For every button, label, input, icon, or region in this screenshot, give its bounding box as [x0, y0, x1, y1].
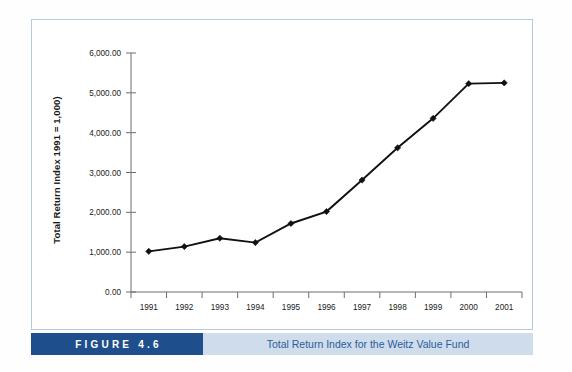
- x-tick-label: 1992: [175, 303, 194, 312]
- y-axis-ticks: 0.001,000.002,000.003,000.004,000.005,00…: [89, 49, 136, 297]
- series-line-total-return-index: [149, 83, 504, 251]
- series-markers: [146, 80, 508, 255]
- data-point-marker: [217, 235, 223, 241]
- figure-number-label: FIGURE 4.6: [31, 333, 203, 355]
- x-axis-ticks: 1991199219931994199519961997199819992000…: [131, 292, 522, 312]
- data-point-marker: [181, 243, 187, 249]
- x-tick-label: 1993: [211, 303, 230, 312]
- figure-caption-text: Total Return Index for the Weitz Value F…: [203, 333, 533, 355]
- y-tick-label: 0.00: [105, 288, 121, 297]
- data-point-marker: [501, 80, 507, 86]
- x-tick-label: 1999: [424, 303, 443, 312]
- x-tick-label: 1994: [246, 303, 265, 312]
- figure-container: Total Return Index 1991 = 1,000) 0.001,0…: [0, 0, 572, 372]
- x-tick-label: 2000: [460, 303, 479, 312]
- x-tick-label: 1998: [388, 303, 407, 312]
- y-tick-label: 6,000.00: [89, 49, 121, 58]
- x-tick-label: 1991: [140, 303, 159, 312]
- line-chart-plot: 0.001,000.002,000.003,000.004,000.005,00…: [32, 20, 532, 328]
- chart-frame: Total Return Index 1991 = 1,000) 0.001,0…: [31, 19, 533, 330]
- x-tick-label: 1995: [282, 303, 301, 312]
- y-tick-label: 2,000.00: [89, 208, 121, 217]
- y-tick-label: 5,000.00: [89, 89, 121, 98]
- caption-bar: FIGURE 4.6 Total Return Index for the We…: [31, 333, 533, 355]
- y-tick-label: 3,000.00: [89, 169, 121, 178]
- y-tick-label: 1,000.00: [89, 248, 121, 257]
- data-point-marker: [146, 248, 152, 254]
- x-tick-label: 1997: [353, 303, 372, 312]
- y-tick-label: 4,000.00: [89, 129, 121, 138]
- x-tick-label: 1996: [317, 303, 336, 312]
- x-tick-label: 2001: [495, 303, 514, 312]
